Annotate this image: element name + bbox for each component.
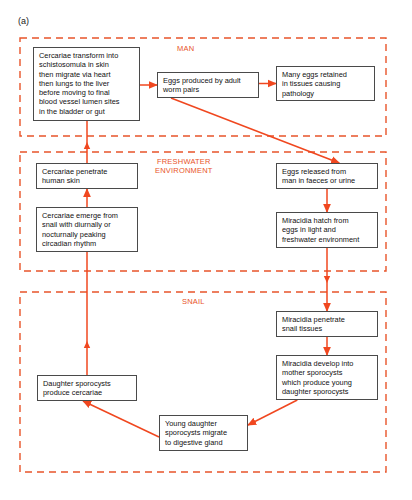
- process-node-eggs-produced: Eggs produced by adult worm pairs: [157, 72, 259, 98]
- process-node-cercariae-penetrate: Cercariae penetrate human skin: [36, 163, 138, 189]
- process-node-miracidia-hatch: Miracidia hatch from eggs in light and f…: [276, 212, 378, 248]
- process-node-miracidia-develop: Miracidia develop into mother sporocysts…: [276, 355, 378, 400]
- process-node-many-eggs-retained: Many eggs retained in tissues causing pa…: [276, 66, 375, 101]
- region-label-man: MAN: [177, 44, 194, 53]
- process-node-young-daughter: Young daughter sporocysts migrate to dig…: [159, 415, 248, 451]
- connector-arrowhead-man-stem: [84, 142, 90, 149]
- connector-eggs-to-released: [171, 98, 339, 163]
- process-node-miracidia-penetrate: Miracidia penetrate snail tissues: [276, 311, 378, 337]
- connector-young-to-daughter: [83, 401, 159, 437]
- region-label-snail: SNAIL: [182, 297, 205, 306]
- process-node-cercariae-transform: Cercariae transform into schistosomula i…: [33, 47, 140, 121]
- process-node-cercariae-emerge: Cercariae emerge from snail with diurnal…: [36, 207, 138, 252]
- figure-container: (a) Cercariae transform into schistosomu…: [0, 0, 412, 500]
- process-node-daughter-sporocysts: Daughter sporocysts produce cercariae: [37, 375, 137, 401]
- region-label-freshwater: FRESHWATER ENVIRONMENT: [155, 157, 213, 175]
- figure-panel-label: (a): [18, 16, 29, 26]
- process-node-eggs-released: Eggs released from man in faeces or urin…: [276, 163, 378, 189]
- connector-arrowhead-hatch-stem: [324, 276, 330, 283]
- connector-arrowhead-snail-stem: [84, 341, 90, 348]
- connector-develop-to-young: [248, 400, 297, 425]
